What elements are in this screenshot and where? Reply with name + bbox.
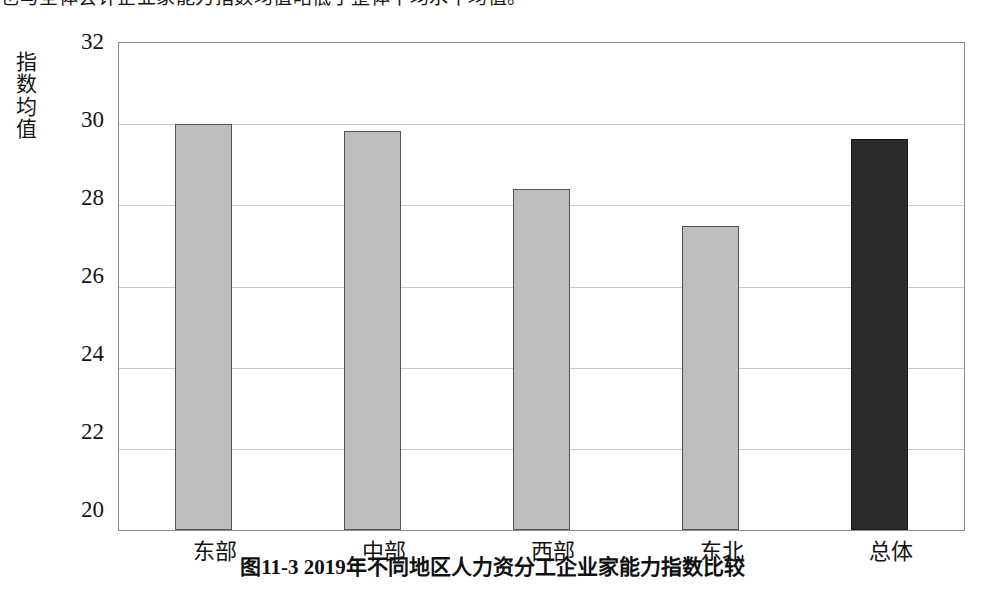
y-axis-title: 指数均值 [9,51,43,140]
figure-caption: 图11-3 2019年不同地区人力资分工企业家能力指数比较 [0,555,985,579]
y-tick-label: 22 [52,420,104,443]
y-axis-title-char: 值 [9,118,43,140]
y-tick-label: 26 [52,264,104,287]
y-axis-title-char: 数 [9,73,43,95]
gridline [119,124,964,125]
figure-bar-chart: 指数均值 32 30 28 26 24 22 20 东部 中部 西部 东北 总体 [0,18,985,593]
bar-中部 [344,131,401,530]
bar-东北 [682,226,739,530]
y-axis-title-char: 指 [9,51,43,73]
page-body-text-clipped: 也与全体会计企业家能力指数均值略低于整体平均水平均值。 [0,0,985,9]
y-tick-label: 30 [52,108,104,131]
y-tick-label: 32 [52,30,104,53]
bar-西部 [513,189,570,530]
bar-东部 [175,124,232,530]
y-tick-label: 24 [52,342,104,365]
y-tick-label: 28 [52,186,104,209]
y-axis-title-char: 均 [9,96,43,118]
plot-area [118,42,965,531]
bar-总体 [851,139,908,530]
y-tick-label: 20 [52,498,104,521]
